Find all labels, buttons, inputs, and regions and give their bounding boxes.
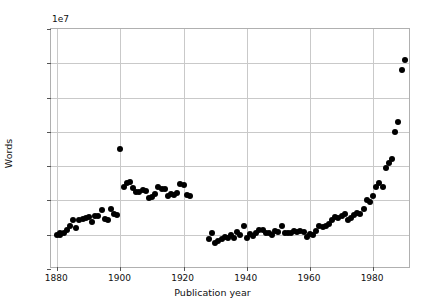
data-point [231, 235, 237, 241]
data-point [279, 223, 285, 229]
data-point [392, 129, 398, 135]
x-axis-tick-label: 1960 [297, 273, 320, 283]
x-axis-tick-label: 1940 [234, 273, 257, 283]
data-point [399, 67, 405, 73]
y-axis-tick [47, 200, 51, 201]
y-axis-tick [47, 63, 51, 64]
x-axis-tick [57, 267, 58, 271]
data-point [370, 193, 376, 199]
x-axis-tick [247, 267, 248, 271]
y-gridline [51, 166, 409, 167]
x-axis-title: Publication year [0, 287, 425, 298]
data-point [73, 225, 79, 231]
data-point [95, 213, 101, 219]
data-point [361, 206, 367, 212]
x-axis-tick-label: 1980 [361, 273, 384, 283]
x-axis-tick-label: 1880 [45, 273, 68, 283]
y-gridline [51, 63, 409, 64]
data-point [174, 190, 180, 196]
x-axis-tick [373, 267, 374, 271]
data-point [357, 211, 363, 217]
y-axis-tick [47, 269, 51, 270]
data-point [181, 182, 187, 188]
data-point [99, 207, 105, 213]
y-axis-tick [47, 29, 51, 30]
scatter-plot-figure: 1e7 Words Publication year 0.00.51.01.52… [0, 0, 425, 306]
y-axis-offset-label: 1e7 [52, 14, 69, 24]
y-gridline [51, 98, 409, 99]
x-axis-tick [120, 267, 121, 271]
x-gridline [184, 29, 185, 267]
data-point [117, 146, 123, 152]
data-point [395, 119, 401, 125]
y-axis-tick [47, 132, 51, 133]
data-point [209, 230, 215, 236]
data-point [389, 156, 395, 162]
y-gridline [51, 200, 409, 201]
y-axis-title: Words [3, 139, 14, 168]
data-point [237, 232, 243, 238]
y-axis-tick [47, 166, 51, 167]
data-point [241, 223, 247, 229]
data-point [383, 165, 389, 171]
plot-area [50, 28, 410, 268]
data-point [143, 188, 149, 194]
x-axis-tick [184, 267, 185, 271]
y-gridline [51, 132, 409, 133]
data-point [275, 229, 281, 235]
x-gridline [373, 29, 374, 267]
data-point [67, 223, 73, 229]
data-point [105, 217, 111, 223]
x-axis-tick [310, 267, 311, 271]
data-point [367, 199, 373, 205]
x-axis-tick-label: 1920 [171, 273, 194, 283]
data-point [162, 186, 168, 192]
y-axis-tick [47, 235, 51, 236]
data-point [89, 219, 95, 225]
x-axis-tick-label: 1900 [108, 273, 131, 283]
data-point [127, 179, 133, 185]
data-point [206, 236, 212, 242]
data-point [152, 191, 158, 197]
data-point [70, 217, 76, 223]
data-point [402, 57, 408, 63]
data-point [114, 212, 120, 218]
y-axis-tick [47, 98, 51, 99]
data-point [187, 193, 193, 199]
data-point [380, 184, 386, 190]
